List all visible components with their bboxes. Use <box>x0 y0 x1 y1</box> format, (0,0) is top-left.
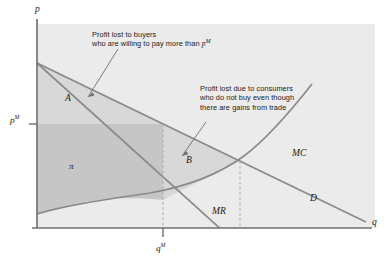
mc-curve-label: MC <box>292 147 306 158</box>
qm-tick-label: qM <box>156 243 165 253</box>
region-b-label: B <box>186 154 192 165</box>
annotation-buyers-line1: Profit lost to buyers <box>92 30 211 39</box>
monopoly-deadweight-loss-figure: p q pM qM A B π MC MR D Profit lost to b… <box>0 0 392 273</box>
annotation-consumers-line1: Profit lost due to consumers <box>200 84 294 93</box>
annotation-consumers: Profit lost due to consumers who do not … <box>200 84 294 112</box>
profit-region-label: π <box>69 161 74 171</box>
annotation-consumers-line2: who do not buy even though <box>200 93 294 102</box>
y-axis-label: p <box>35 3 40 14</box>
x-axis-label: q <box>372 216 377 227</box>
pm-tick-label: pM <box>10 115 19 125</box>
annotation-buyers: Profit lost to buyers who are willing to… <box>92 30 211 49</box>
d-curve-label: D <box>310 192 317 203</box>
annotation-consumers-line3: there are gains from trade <box>200 103 294 112</box>
annotation-buyers-line2: who are willing to pay more than pM <box>92 39 211 48</box>
mr-curve-label: MR <box>212 205 226 216</box>
region-a-label: A <box>65 92 71 103</box>
